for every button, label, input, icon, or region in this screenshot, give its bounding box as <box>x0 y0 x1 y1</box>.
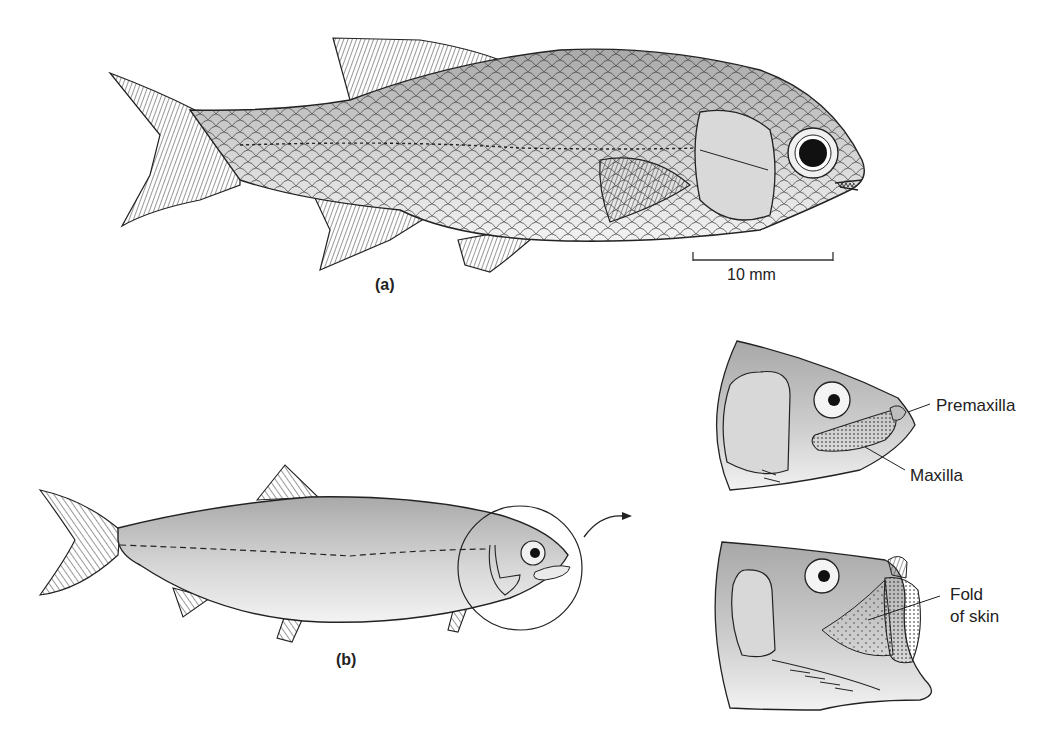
figure-canvas <box>0 0 1053 731</box>
fossil-fish-illustration <box>110 38 864 272</box>
head-closeup-advanced <box>715 542 940 710</box>
operculum-c2 <box>732 570 775 657</box>
maxilla-shape-c2 <box>884 578 920 663</box>
zoom-arrow <box>584 516 622 537</box>
annotation-premaxilla: Premaxilla <box>936 396 1015 416</box>
panel-b-label: (b) <box>336 650 356 670</box>
scale-bar <box>693 252 833 261</box>
scale-bar-label: 10 mm <box>727 265 776 285</box>
eye-pupil <box>799 139 827 167</box>
teleost-fish-illustration <box>40 465 632 642</box>
caudal-fin-b <box>40 490 120 595</box>
operculum-c1 <box>723 371 790 473</box>
annotation-of-skin: of skin <box>950 607 999 627</box>
dorsal-fin-b <box>257 465 318 500</box>
operculum <box>695 110 775 220</box>
annotation-fold: Fold <box>950 585 983 605</box>
panel-a-label: (a) <box>375 275 395 295</box>
annotation-maxilla: Maxilla <box>910 466 963 486</box>
head-closeup-primitive <box>717 341 930 490</box>
